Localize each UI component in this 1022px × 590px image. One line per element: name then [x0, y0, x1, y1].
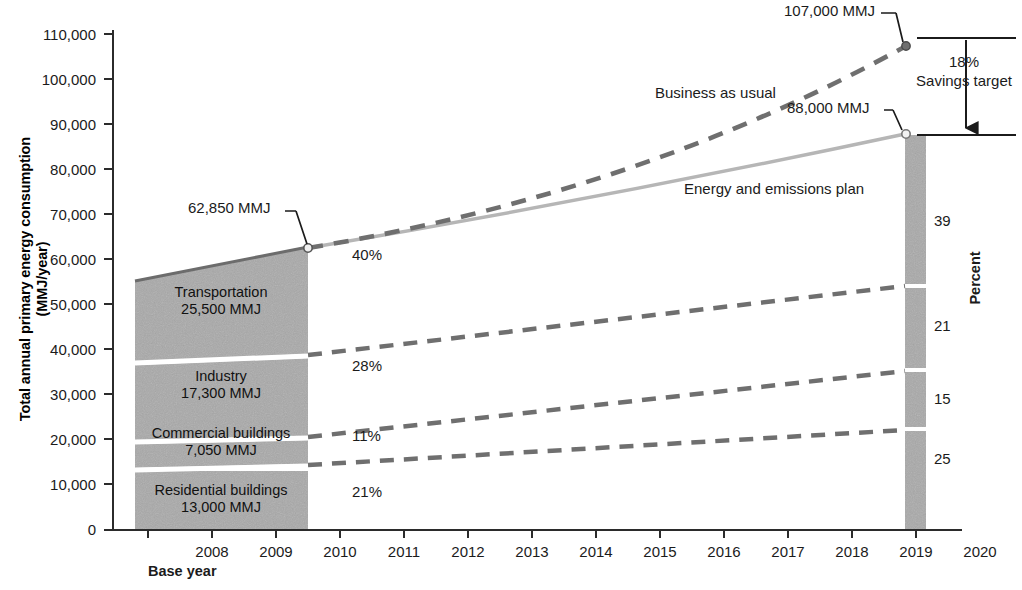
energy-consumption-chart: 110,000 100,000 90,000 80,000 70,000 60,… [0, 0, 1022, 590]
base-share-commercial: 11% [352, 427, 381, 444]
target-segment-industry [905, 288, 926, 368]
x-tick-label: 2017 [753, 543, 823, 560]
segment-name-commercial: Commercial buildings [121, 425, 321, 442]
x-tick-label: 2012 [433, 543, 503, 560]
datapoint-bau-2020 [902, 42, 910, 50]
segment-value-transportation: 25,500 MMJ [121, 301, 321, 318]
y-tick-label: 60,000 [0, 251, 96, 268]
segment-label-industry: Industry 17,300 MMJ [121, 368, 321, 402]
y-tick-label: 50,000 [0, 296, 96, 313]
x-tick-label: 2020 [945, 543, 1015, 560]
target-segment-commercial [905, 372, 926, 427]
x-tick-label: 2016 [689, 543, 759, 560]
x-axis-ticks [148, 530, 916, 538]
x-tick-label: 2013 [497, 543, 567, 560]
leader-line-bau-peak [881, 13, 903, 42]
target-share-commercial: 15 [934, 390, 951, 407]
target-share-industry: 21 [934, 317, 951, 334]
annotation-bau-peak: 107,000 MMJ [784, 2, 875, 19]
x-tick-label: 2010 [305, 543, 375, 560]
segment-name-industry: Industry [121, 368, 321, 385]
y-tick-label: 80,000 [0, 161, 96, 178]
y-tick-label: 100,000 [0, 71, 96, 88]
x-axis-title: Base year [148, 563, 217, 579]
target-share-residential: 25 [934, 450, 951, 467]
boundary-line-transportation-industry [308, 286, 905, 355]
segment-label-residential: Residential buildings 13,000 MMJ [121, 482, 321, 516]
x-tick-label: 2015 [625, 543, 695, 560]
x-tick-label: 2011 [369, 543, 439, 560]
y-tick-label: 30,000 [0, 386, 96, 403]
segment-name-transportation: Transportation [121, 284, 321, 301]
datapoint-base-total [304, 244, 312, 252]
segment-label-commercial: Commercial buildings 7,050 MMJ [121, 425, 321, 459]
savings-target-text: Savings target [916, 72, 1012, 89]
x-tick-label: 2018 [817, 543, 887, 560]
datapoint-plan-2020 [902, 130, 910, 138]
series-label-energy-emissions-plan: Energy and emissions plan [684, 180, 864, 197]
annotation-plan-peak: 88,000 MMJ [787, 99, 870, 116]
segment-value-residential: 13,000 MMJ [121, 499, 321, 516]
target-year-stacked-bar [905, 135, 926, 530]
leader-line-plan-peak [884, 110, 902, 130]
x-tick-label: 2014 [561, 543, 631, 560]
savings-target-percent: 18% [949, 53, 979, 70]
leader-line-base-total [285, 211, 307, 244]
annotation-base-total: 62,850 MMJ [188, 199, 271, 216]
y-tick-label: 70,000 [0, 206, 96, 223]
target-segment-transportation [905, 135, 926, 284]
segment-name-residential: Residential buildings [121, 482, 321, 499]
series-line-business-as-usual [308, 46, 906, 248]
boundary-line-industry-commercial [308, 371, 905, 437]
savings-target-annotation: 18% Savings target [905, 52, 1022, 90]
boundary-line-commercial-residential [308, 430, 905, 465]
target-segment-residential [905, 431, 926, 530]
x-tick-label: 2008 [177, 543, 247, 560]
base-share-industry: 28% [352, 357, 382, 374]
y-tick-label: 40,000 [0, 341, 96, 358]
x-tick-label: 2009 [241, 543, 311, 560]
y-tick-label: 0 [0, 521, 96, 538]
series-label-business-as-usual: Business as usual [655, 84, 776, 101]
y-axis-ticks [104, 34, 113, 530]
y-tick-label: 10,000 [0, 476, 96, 493]
y-tick-label: 110,000 [0, 26, 96, 43]
base-share-transportation: 40% [352, 246, 382, 263]
x-tick-label: 2019 [881, 543, 951, 560]
right-axis-title: Percent [967, 218, 987, 338]
segment-value-industry: 17,300 MMJ [121, 385, 321, 402]
target-share-transportation: 39 [934, 212, 951, 229]
segment-value-commercial: 7,050 MMJ [121, 442, 321, 459]
base-share-residential: 21% [352, 483, 382, 500]
y-tick-label: 20,000 [0, 431, 96, 448]
segment-label-transportation: Transportation 25,500 MMJ [121, 284, 321, 318]
y-tick-label: 90,000 [0, 116, 96, 133]
